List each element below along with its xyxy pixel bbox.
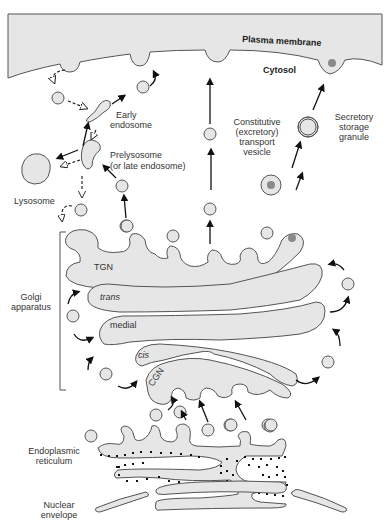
lysosome-label: Lysosome bbox=[14, 196, 55, 206]
plasma-membrane bbox=[8, 14, 382, 78]
early-endosome-label-1: Early bbox=[116, 110, 137, 120]
golgi-label-1: Golgi bbox=[8, 292, 54, 302]
diagram-canvas: Plasma membrane Cytosol Early endosome P… bbox=[0, 0, 388, 528]
vesicle bbox=[75, 204, 87, 216]
golgi-label-2: apparatus bbox=[8, 302, 54, 312]
prelysosome bbox=[81, 140, 100, 169]
prelysosome-label-1: Prelysosome bbox=[110, 150, 162, 160]
recycling-vesicle bbox=[137, 81, 149, 93]
secretory-label-3: granule bbox=[324, 132, 384, 142]
nuclear-label-1: Nuclear bbox=[34, 500, 84, 510]
cis-label: cis bbox=[138, 350, 149, 360]
secretory-label-1: Secretory bbox=[324, 112, 384, 122]
early-endosome bbox=[86, 100, 110, 122]
constitutive-label-1: Constitutive bbox=[222, 117, 292, 127]
prelysosome-label-2: (or late endosome) bbox=[110, 161, 186, 171]
lysosome bbox=[22, 154, 51, 184]
cargo-icon bbox=[328, 59, 336, 67]
cargo-icon bbox=[288, 234, 296, 242]
early-endosome-label-2: endosome bbox=[110, 120, 152, 130]
vesicle bbox=[116, 180, 128, 192]
constitutive-label-3: transport bbox=[222, 137, 292, 147]
constitutive-label-2: (excretory) bbox=[222, 127, 292, 137]
nuclear-label-2: envelope bbox=[34, 510, 84, 520]
trans-label: trans bbox=[100, 292, 120, 302]
er-label-2: reticulum bbox=[24, 456, 84, 466]
medial-label: medial bbox=[110, 320, 137, 330]
tgn-label: TGN bbox=[94, 262, 113, 272]
constitutive-label-4: vesicle bbox=[222, 147, 292, 157]
cytosol-label: Cytosol bbox=[263, 65, 296, 75]
constitutive-pathway bbox=[204, 80, 216, 215]
er-label-1: Endoplasmic bbox=[24, 446, 84, 456]
golgi-bracket bbox=[60, 232, 66, 390]
endocytic-vesicle bbox=[52, 92, 64, 104]
secretory-label-2: storage bbox=[324, 122, 384, 132]
endoplasmic-reticulum bbox=[85, 419, 288, 510]
